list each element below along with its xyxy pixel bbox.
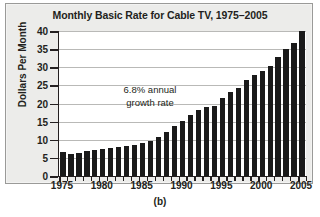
y-tick-label: 25 [37,80,48,91]
y-tick-label: 0 [42,171,48,182]
x-axis-labels: 1975198019851990199520002005 [58,180,305,194]
bar [108,148,113,176]
bar [116,147,121,176]
y-tick-label: 40 [37,26,48,37]
bar [156,137,161,176]
x-tick-label: 1990 [170,180,192,191]
bar [180,121,185,176]
y-tick-mark [50,49,58,51]
x-tick-label: 2000 [250,180,272,191]
bar [260,71,265,176]
bar [268,66,273,176]
bar [188,115,193,176]
x-tick-label: 2005 [290,180,312,191]
y-tick-mark [50,67,58,69]
bar [140,143,145,176]
y-tick-mark [50,140,58,142]
bar [204,107,209,176]
x-tick-label: 1985 [131,180,153,191]
bar [148,141,153,176]
y-tick-mark [50,104,58,106]
y-tick-label: 10 [37,134,48,145]
bar [220,98,225,176]
y-tick-mark [50,176,58,178]
plot-area: 0510152025303540 [58,31,306,177]
figure-caption: (b) [0,196,320,207]
bar [252,75,257,176]
bar [244,80,249,176]
bar [84,151,89,176]
figure-panel: Monthly Basic Rate for Cable TV, 1975–20… [0,0,320,217]
bar [212,106,217,176]
x-tick-label: 1980 [91,180,113,191]
bar [76,153,81,176]
bar [132,145,137,176]
x-tick-label: 1975 [51,180,73,191]
y-tick-label: 35 [37,44,48,55]
bar [164,132,169,176]
y-tick-mark [50,158,58,160]
bar [283,49,288,176]
bar [236,88,241,176]
bar [275,57,280,176]
y-tick-label: 20 [37,98,48,109]
bar [228,92,233,176]
bar [196,110,201,176]
y-tick-mark [50,85,58,87]
y-axis-title: Dollars Per Month [17,5,28,125]
y-tick-label: 5 [42,152,48,163]
bar-series [59,31,306,176]
bar [124,146,129,176]
bar [68,154,73,176]
y-tick-label: 15 [37,116,48,127]
y-tick-mark [50,122,58,124]
bar [299,31,304,176]
bar [60,152,65,176]
chart-title: Monthly Basic Rate for Cable TV, 1975–20… [6,9,314,21]
bar [291,43,296,176]
bar [92,150,97,176]
y-tick-mark [50,31,58,33]
bar [100,149,105,176]
y-tick-label: 30 [37,62,48,73]
bar [172,126,177,176]
x-tick-label: 1995 [210,180,232,191]
chart-panel: Monthly Basic Rate for Cable TV, 1975–20… [5,3,313,184]
